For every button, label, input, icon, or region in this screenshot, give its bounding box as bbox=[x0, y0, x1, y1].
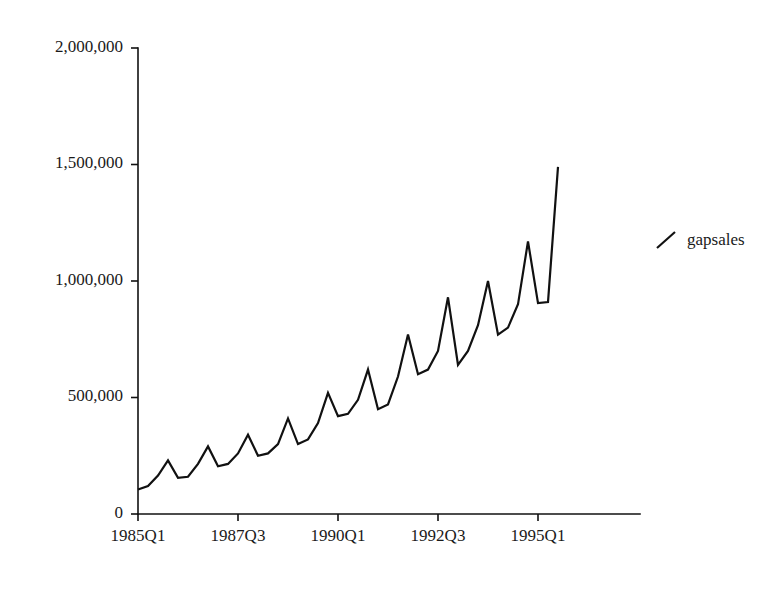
legend-entry-label: gapsales bbox=[687, 230, 745, 249]
chart-background bbox=[0, 0, 780, 589]
x-tick-label: 1990Q1 bbox=[311, 526, 366, 545]
x-tick-label: 1995Q1 bbox=[511, 526, 566, 545]
x-tick-label: 1992Q3 bbox=[411, 526, 466, 545]
y-tick-label: 500,000 bbox=[68, 386, 123, 405]
x-tick-label: 1987Q3 bbox=[211, 526, 266, 545]
chart-figure: 0500,0001,000,0001,500,0002,000,000 1985… bbox=[0, 0, 780, 589]
y-tick-label: 0 bbox=[115, 503, 124, 522]
y-tick-label: 1,000,000 bbox=[55, 270, 123, 289]
y-tick-label: 1,500,000 bbox=[55, 153, 123, 172]
y-tick-label: 2,000,000 bbox=[55, 37, 123, 56]
x-tick-label: 1985Q1 bbox=[111, 526, 166, 545]
line-chart: 0500,0001,000,0001,500,0002,000,000 1985… bbox=[0, 0, 780, 589]
